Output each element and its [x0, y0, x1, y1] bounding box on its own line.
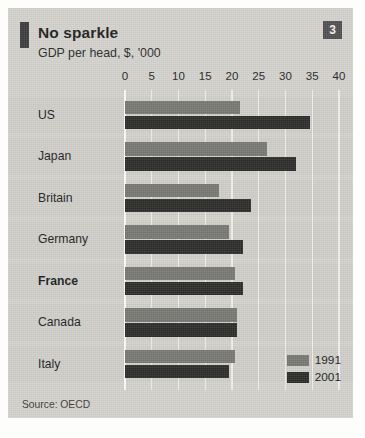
category-label-us: US	[38, 108, 55, 122]
legend-item-1991: 1991	[287, 353, 341, 367]
gridline-25	[258, 90, 259, 390]
bar-britain-2001	[125, 199, 251, 213]
legend-label-1991: 1991	[315, 353, 341, 367]
chart-number-badge: 3	[323, 21, 342, 39]
bar-britain-1991	[125, 184, 219, 198]
x-tick-0: 0	[122, 70, 128, 82]
x-tick-25: 25	[252, 70, 265, 82]
x-tick-40: 40	[333, 70, 346, 82]
bar-canada-1991	[125, 308, 237, 322]
bar-germany-2001	[125, 240, 243, 254]
bar-japan-2001	[125, 157, 296, 171]
gridline-30	[285, 90, 286, 390]
category-label-japan: Japan	[38, 149, 71, 163]
bar-us-1991	[125, 101, 240, 115]
bar-france-2001	[125, 282, 243, 296]
x-tick-30: 30	[279, 70, 292, 82]
page-title: No sparkle	[38, 24, 118, 42]
category-label-britain: Britain	[38, 191, 73, 205]
gridline-40	[338, 90, 339, 390]
category-label-canada: Canada	[38, 315, 81, 329]
x-tick-5: 5	[149, 70, 155, 82]
category-label-germany: Germany	[38, 232, 88, 246]
chart-figure: No sparkle GDP per head, $, '000 3 05101…	[8, 8, 353, 418]
x-axis-tick-labels: 0510152025303540	[8, 70, 353, 88]
bar-canada-2001	[125, 323, 237, 337]
bar-us-2001	[125, 116, 310, 130]
legend-swatch-1991	[287, 355, 309, 366]
category-label-italy: Italy	[38, 357, 60, 371]
gridline-35	[312, 90, 313, 390]
title-rule	[20, 22, 29, 48]
bar-germany-1991	[125, 225, 229, 239]
legend: 19912001	[287, 353, 341, 384]
source-note: Source: OECD	[22, 399, 90, 410]
legend-swatch-2001	[287, 372, 309, 383]
x-tick-35: 35	[306, 70, 319, 82]
bar-italy-2001	[125, 365, 229, 379]
x-tick-20: 20	[226, 70, 239, 82]
bar-italy-1991	[125, 350, 235, 364]
legend-item-2001: 2001	[287, 370, 341, 384]
category-label-france: France	[38, 274, 78, 288]
plot-area: 0510152025303540 USJapanBritainGermanyFr…	[8, 70, 353, 390]
plot-canvas: USJapanBritainGermanyFranceCanadaItaly 1…	[8, 90, 353, 390]
legend-label-2001: 2001	[315, 370, 341, 384]
x-tick-10: 10	[172, 70, 185, 82]
x-tick-15: 15	[199, 70, 212, 82]
bar-japan-1991	[125, 142, 267, 156]
bar-france-1991	[125, 267, 235, 281]
chart-subtitle: GDP per head, $, '000	[38, 46, 161, 60]
